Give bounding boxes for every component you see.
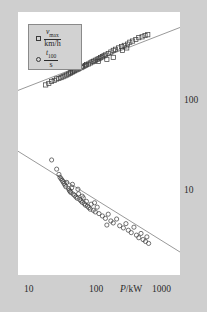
- open-square-icon: [32, 29, 44, 47]
- figure-container: vmax km/h t100 s 10 100 P/kW 1000 100 10: [0, 0, 207, 312]
- x-tick-label-10: 10: [24, 284, 34, 294]
- legend-numerator-t100: t100: [44, 49, 58, 61]
- y-tick-label-100: 100: [184, 95, 198, 105]
- data-point: [147, 241, 151, 245]
- data-point: [103, 216, 107, 220]
- y-tick-label-10: 10: [184, 185, 194, 195]
- legend-label-t100: t100 s: [44, 49, 58, 69]
- data-point: [129, 231, 133, 235]
- legend-item-t100: t100 s: [32, 49, 58, 69]
- data-point: [57, 172, 61, 176]
- trendline-t100: [18, 151, 180, 252]
- x-axis-title: P/kW: [120, 284, 142, 294]
- data-point: [111, 55, 115, 59]
- data-point: [124, 222, 128, 226]
- data-point: [44, 83, 48, 87]
- data-point: [121, 226, 125, 230]
- data-point: [95, 205, 99, 209]
- x-tick-label-1000: 1000: [152, 284, 171, 294]
- data-point: [105, 223, 109, 227]
- data-point: [145, 235, 149, 239]
- legend-box: vmax km/h t100 s: [28, 24, 82, 70]
- legend-denominator-t100: s: [44, 61, 58, 70]
- legend-label-vmax: vmax km/h: [44, 28, 61, 48]
- legend-denominator-vmax: km/h: [44, 40, 61, 49]
- x-tick-label-100: 100: [89, 284, 103, 294]
- open-circle-icon: [32, 50, 44, 68]
- legend-item-vmax: vmax km/h: [32, 28, 61, 48]
- data-point: [55, 167, 59, 171]
- legend-numerator-vmax: vmax: [44, 28, 61, 40]
- data-point: [50, 158, 54, 162]
- data-point: [115, 217, 119, 221]
- data-point: [126, 228, 130, 232]
- data-point: [106, 212, 110, 216]
- data-point: [139, 231, 143, 235]
- series-t100-markers: [50, 158, 151, 246]
- data-point: [134, 233, 138, 237]
- data-point: [132, 225, 136, 229]
- data-point: [137, 236, 141, 240]
